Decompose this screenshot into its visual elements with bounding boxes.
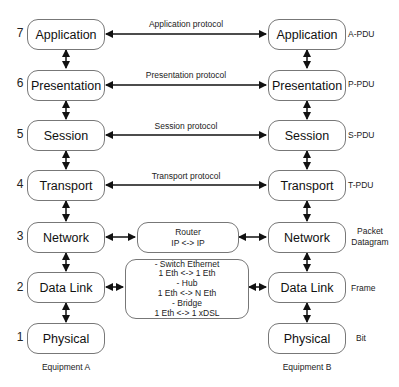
bridge-mapping: 1 Eth <-> 1 xDSL: [126, 309, 248, 319]
equipment-b-session-layer: Session: [268, 120, 346, 151]
pdu-label-network-line2: Datagram: [348, 237, 392, 248]
pdu-label-presentation: P-PDU: [348, 79, 374, 90]
pdu-label-application: A-PDU: [348, 29, 374, 40]
transport-protocol-label: Transport protocol: [96, 171, 276, 181]
layer-number-6: 6: [15, 76, 25, 90]
equipment-b-transport-layer: Transport: [268, 170, 346, 201]
layer-number-4: 4: [15, 177, 25, 191]
pdu-label-network: Packet Datagram: [348, 226, 392, 248]
equipment-a-label: Equipment A: [26, 362, 106, 372]
router-box: Router IP <-> IP: [137, 222, 239, 253]
equipment-a-session-layer: Session: [27, 120, 105, 151]
layer-number-5: 5: [15, 127, 25, 141]
layer-number-7: 7: [15, 26, 25, 40]
pdu-label-transport: T-PDU: [348, 180, 374, 191]
equipment-b-presentation-layer: Presentation: [268, 70, 346, 101]
router-label: Router: [138, 227, 238, 238]
pdu-label-network-line1: Packet: [348, 226, 392, 237]
equipment-b-network-layer: Network: [268, 222, 346, 253]
application-protocol-label: Application protocol: [96, 19, 276, 29]
layer-number-2: 2: [15, 280, 25, 294]
equipment-b-application-layer: Application: [268, 19, 346, 50]
pdu-label-data-link: Frame: [351, 283, 376, 294]
equipment-a-application-layer: Application: [27, 19, 105, 50]
equipment-a-data-link-layer: Data Link: [27, 272, 105, 303]
switch-hub-bridge-box: - Switch Ethernet 1 Eth <-> 1 Eth - Hub …: [125, 259, 249, 319]
equipment-b-data-link-layer: Data Link: [268, 272, 346, 303]
router-mapping: IP <-> IP: [138, 238, 238, 249]
equipment-b-physical-layer: Physical: [268, 323, 346, 354]
pdu-label-physical: Bit: [356, 333, 366, 344]
equipment-a-network-layer: Network: [27, 222, 105, 253]
equipment-a-transport-layer: Transport: [27, 170, 105, 201]
layer-number-3: 3: [15, 229, 25, 243]
equipment-a-presentation-layer: Presentation: [27, 70, 105, 101]
session-protocol-label: Session protocol: [96, 121, 276, 131]
layer-number-1: 1: [15, 330, 25, 344]
presentation-protocol-label: Presentation protocol: [96, 70, 276, 80]
equipment-a-physical-layer: Physical: [27, 323, 105, 354]
equipment-b-label: Equipment B: [267, 362, 347, 372]
pdu-label-session: S-PDU: [348, 130, 374, 141]
